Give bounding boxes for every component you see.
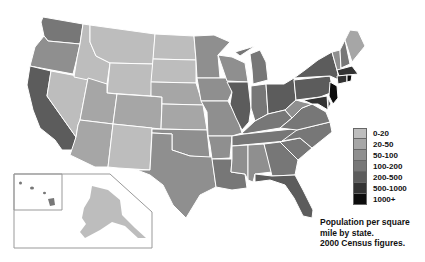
legend-item: 200-500 [353,172,407,183]
state-ri[interactable] [347,75,352,82]
legend-swatch [353,128,367,139]
legend-swatch [353,161,367,172]
legend-label: 100-200 [373,161,402,172]
state-sd[interactable] [151,59,196,83]
state-wy[interactable] [107,63,153,96]
legend-swatch [353,150,367,161]
state-mt[interactable] [90,25,155,64]
legend-label: 0-20 [373,128,389,139]
legend-item: 1000+ [353,194,407,205]
caption-line-3: 2000 Census figures. [320,238,425,249]
legend-swatch [353,172,367,183]
legend-label: 200-500 [373,172,402,183]
state-ct[interactable] [337,75,347,84]
legend-item: 100-200 [353,161,407,172]
legend-label: 1000+ [373,194,395,205]
legend-label: 50-100 [373,150,398,161]
legend-item: 500-1000 [353,183,407,194]
state-ia[interactable] [197,78,232,101]
caption-line-2: mile by state. [320,228,425,239]
state-ny[interactable] [294,52,339,80]
state-ks[interactable] [161,104,207,130]
legend-item: 0-20 [353,128,407,139]
state-nd[interactable] [153,34,196,60]
inset-alaska-hawaii [14,174,152,248]
state-nm[interactable] [108,124,152,170]
state-fl[interactable] [255,174,313,218]
legend-swatch [353,183,367,194]
legend-item: 50-100 [353,150,407,161]
state-ar[interactable] [208,136,232,159]
legend: 0-20 20-50 50-100 100-200 200-500 500-10… [353,128,407,205]
caption-line-1: Population per square [320,217,425,228]
legend-item: 20-50 [353,139,407,150]
map-caption: Population per square mile by state. 200… [320,217,425,249]
legend-swatch [353,194,367,205]
state-co[interactable] [113,94,162,129]
state-nj[interactable] [329,82,338,104]
legend-label: 20-50 [373,139,393,150]
legend-swatch [353,139,367,150]
legend-label: 500-1000 [373,183,407,194]
